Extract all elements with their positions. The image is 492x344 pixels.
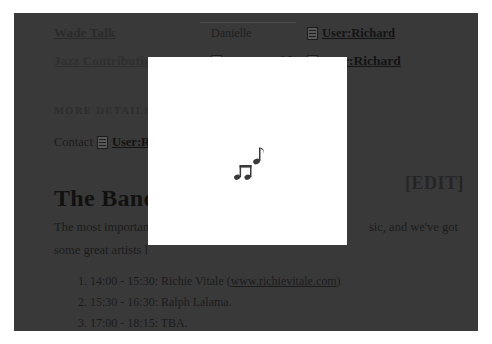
screenshot-canvas: Wade Talk Danielle User:Richard Jazz Con…	[0, 0, 492, 344]
setlist-item-suffix: )	[337, 274, 341, 288]
music-notes-icon	[226, 146, 272, 184]
setlist-item-link[interactable]: www.richievitale.com	[231, 274, 337, 288]
list-item: 14:00 - 15:30: Richie Vitale (www.richie…	[90, 271, 341, 292]
setlist: 14:00 - 15:30: Richie Vitale (www.richie…	[66, 271, 341, 331]
contact-user-link[interactable]: User:R	[112, 135, 150, 150]
topbar-divider	[200, 22, 296, 23]
paragraph-fragment-left: The most importan	[54, 220, 149, 234]
setlist-item-text: 17:00 - 18:15: TBA.	[90, 316, 188, 330]
contact-line: Contact User:R	[54, 135, 150, 150]
list-item: 17:00 - 18:15: TBA.	[90, 313, 341, 331]
setlist-item-text: 14:00 - 15:30: Richie Vitale (	[90, 274, 231, 288]
paragraph-fragment-right: sic, and we've got	[369, 216, 458, 239]
media-loading-panel[interactable]	[148, 57, 347, 245]
setlist-item-text: 15:30 - 16:30: Ralph Lalama.	[90, 295, 232, 309]
page-title: The Band	[54, 185, 157, 212]
document-icon	[97, 136, 108, 149]
contact-label: Contact	[54, 135, 93, 150]
list-item: 15:30 - 16:30: Ralph Lalama.	[90, 292, 341, 313]
more-details-label: MORE DETAILS	[54, 105, 151, 116]
nav-user-richard-1[interactable]: User:Richard	[307, 26, 395, 41]
document-icon	[307, 27, 318, 40]
nav-link-contributions[interactable]: Jazz Contributions	[54, 53, 163, 69]
nav-user-link-label: User:Richard	[322, 26, 395, 41]
edit-section-link[interactable]: [EDIT]	[405, 173, 464, 194]
nav-user-name: Danielle	[211, 26, 252, 41]
nav-link-talk[interactable]: Wade Talk	[54, 25, 115, 41]
